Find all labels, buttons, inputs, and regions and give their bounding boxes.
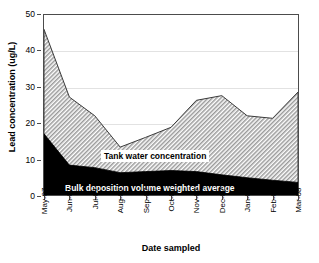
series-layer	[44, 15, 298, 195]
plot-area	[43, 14, 299, 196]
x-tick-dec-07: Dec-07	[215, 196, 229, 242]
y-tick-label-0: 0	[30, 192, 35, 200]
x-tick-label-may-07: May-07	[40, 188, 49, 228]
y-tick-mark-50	[37, 14, 41, 15]
x-tick-label-mar-08: Mar-08	[294, 188, 303, 228]
x-axis-title: Date sampled	[43, 243, 299, 253]
x-tick-mar-08: Mar-08	[291, 196, 305, 242]
x-tick-label-oct-07: Oct-07	[167, 188, 176, 228]
x-axis-ticks: May-07Jun-07Jul-07Aug-07Sep-07Oct-07Nov-…	[43, 196, 299, 242]
lead-concentration-chart: 50 40 30 20 10 0 Lead concentration (ug/…	[0, 0, 319, 263]
x-tick-label-sep-07: Sep-07	[141, 188, 150, 228]
x-tick-jun-07: Jun-07	[62, 196, 76, 242]
x-tick-sep-07: Sep-07	[139, 196, 153, 242]
y-axis-title: Lead concentration (ug/L)	[7, 17, 17, 177]
x-tick-label-feb-08: Feb-08	[268, 188, 277, 228]
x-tick-feb-08: Feb-08	[266, 196, 280, 242]
x-tick-aug-07: Aug-07	[113, 196, 127, 242]
y-tick-mark-20	[37, 123, 41, 124]
y-tick-mark-40	[37, 50, 41, 51]
y-tick-label-50: 50	[26, 10, 35, 18]
x-tick-label-jun-07: Jun-07	[65, 188, 74, 228]
x-tick-oct-07: Oct-07	[164, 196, 178, 242]
x-tick-label-jul-07: Jul-07	[90, 188, 99, 228]
x-tick-nov-07: Nov-07	[189, 196, 203, 242]
y-tick-label-10: 10	[26, 156, 35, 164]
x-tick-label-jan-08: Jan-08	[243, 188, 252, 228]
y-tick-mark-30	[37, 87, 41, 88]
y-tick-label-40: 40	[26, 46, 35, 54]
x-tick-jan-08: Jan-08	[240, 196, 254, 242]
x-tick-label-nov-07: Nov-07	[192, 188, 201, 228]
x-tick-may-07: May-07	[37, 196, 51, 242]
y-tick-label-30: 30	[26, 83, 35, 91]
y-tick-mark-10	[37, 160, 41, 161]
annotation-tank-water: Tank water concentration	[101, 150, 209, 162]
y-tick-label-20: 20	[26, 119, 35, 127]
x-tick-jul-07: Jul-07	[88, 196, 102, 242]
x-tick-label-dec-07: Dec-07	[217, 188, 226, 228]
x-tick-label-aug-07: Aug-07	[116, 188, 125, 228]
